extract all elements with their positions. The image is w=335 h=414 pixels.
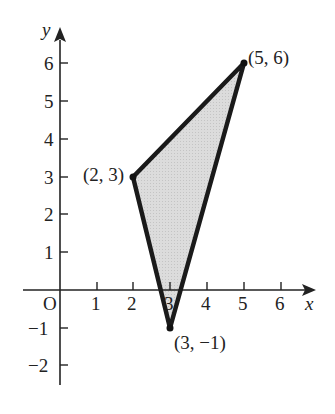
x-axis-label: x [304,293,314,314]
vertex-label: (3, −1) [174,332,226,354]
vertex-label: (5, 6) [248,47,289,69]
x-tick-label: 2 [127,293,137,314]
vertex-label: (2, 3) [83,164,124,186]
y-ticks [60,63,68,365]
y-tick-label: 3 [44,167,54,188]
y-tick-label: 4 [44,129,54,150]
y-tick-label: 6 [44,53,54,74]
triangle-diagram: O 1 2 3 4 5 6 x y 6 5 4 3 2 1 −1 −2 (2, … [0,0,335,414]
vertex-point [167,325,174,332]
x-tick-label: 4 [201,293,211,314]
y-axis-label: y [40,19,51,40]
y-tick-label: 5 [44,91,54,112]
x-tick-label: 6 [275,293,285,314]
coordinate-plane-figure: O 1 2 3 4 5 6 x y 6 5 4 3 2 1 −1 −2 (2, … [0,0,335,414]
vertex-point [241,60,248,67]
vertex-point [130,174,137,181]
origin-label: O [43,293,57,314]
x-tick-label: 1 [91,293,101,314]
y-tick-label: 2 [44,204,54,225]
y-tick-label: −1 [28,318,48,339]
y-axis-arrow-icon [54,27,66,42]
y-tick-label: −2 [28,355,48,376]
y-tick-label: 1 [44,242,54,263]
x-tick-label: 5 [238,293,248,314]
x-ticks [97,282,281,290]
triangle-fill [133,63,244,328]
